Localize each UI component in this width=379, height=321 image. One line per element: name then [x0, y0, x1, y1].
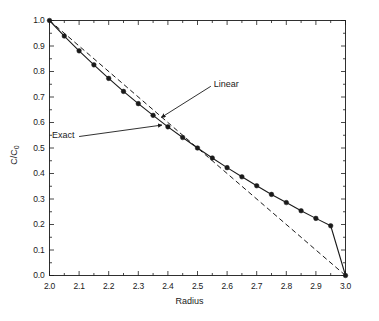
x-tick-label: 2.7: [248, 281, 266, 291]
x-tick-label: 2.1: [70, 281, 88, 291]
annotation-leader-linear: [161, 86, 210, 117]
x-tick-label: 3.0: [337, 281, 355, 291]
y-tick-label: 0.4: [23, 168, 45, 178]
data-point: [92, 63, 97, 68]
data-point: [314, 216, 319, 221]
y-tick-label: 0.0: [23, 270, 45, 280]
y-axis-title-main: C/C: [9, 149, 19, 165]
y-tick-label: 0.2: [23, 219, 45, 229]
data-point: [284, 200, 289, 205]
data-point: [225, 165, 230, 170]
series-exact-markers: [47, 18, 348, 278]
data-point: [240, 175, 245, 180]
chart-figure: C/C0 Radius Linear Exact 2.02.12.22.32.4…: [0, 0, 379, 321]
data-point: [180, 135, 185, 140]
x-tick-label: 2.5: [189, 281, 207, 291]
data-point: [121, 89, 126, 94]
data-point: [343, 273, 348, 278]
data-point: [166, 125, 171, 130]
data-point: [77, 49, 82, 54]
data-point: [210, 156, 215, 161]
data-point: [299, 208, 304, 213]
y-tick-label: 0.6: [23, 117, 45, 127]
y-axis-title: C/C0: [6, 128, 22, 188]
y-tick-label: 0.9: [23, 41, 45, 51]
x-tick-label: 2.0: [41, 281, 59, 291]
data-point: [136, 101, 141, 106]
data-point: [195, 146, 200, 151]
y-tick-label: 1.0: [23, 15, 45, 25]
y-tick-label: 0.8: [23, 66, 45, 76]
annotation-exact: Exact: [52, 130, 75, 140]
y-tick-label: 0.7: [23, 92, 45, 102]
data-point: [254, 183, 259, 188]
plot-canvas: [0, 0, 379, 321]
y-axis-title-sub: 0: [13, 145, 20, 149]
data-point: [106, 76, 111, 81]
x-tick-label: 2.8: [277, 281, 295, 291]
y-tick-label: 0.1: [23, 245, 45, 255]
y-tick-label: 0.5: [23, 143, 45, 153]
y-tick-label: 0.3: [23, 194, 45, 204]
x-tick-label: 2.9: [307, 281, 325, 291]
annotation-leader-exact: [79, 125, 162, 136]
x-tick-label: 2.2: [100, 281, 118, 291]
annotation-leaders: [79, 86, 211, 136]
data-point: [328, 223, 333, 228]
x-tick-label: 2.4: [159, 281, 177, 291]
data-point: [269, 192, 274, 197]
data-point: [47, 18, 52, 23]
x-tick-label: 2.6: [218, 281, 236, 291]
data-point: [62, 34, 67, 39]
data-point: [151, 113, 156, 118]
x-axis-title: Radius: [0, 296, 379, 306]
x-tick-label: 2.3: [129, 281, 147, 291]
annotation-linear: Linear: [214, 79, 239, 89]
